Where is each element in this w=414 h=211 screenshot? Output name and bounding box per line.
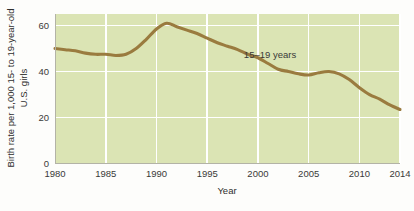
x-tick-label: 1995: [197, 168, 218, 179]
plot-area-background: [55, 14, 400, 163]
y-tick-label: 40: [38, 66, 49, 77]
y-tick-label: 20: [38, 112, 49, 123]
y-axis-title-line1: Birth rate per 1,000 15- to 19-year-old: [5, 9, 16, 168]
x-tick-label: 1980: [44, 168, 65, 179]
chart-figure: 0204060 19801985199019952000200520102014…: [0, 0, 414, 211]
series-annotation-label: 15–19 years: [244, 49, 297, 60]
x-tick-label: 1990: [146, 168, 167, 179]
x-tick-label: 1985: [95, 168, 116, 179]
x-tick-label: 2010: [349, 168, 370, 179]
x-tick-label: 2014: [389, 168, 410, 179]
x-axis-title: Year: [217, 185, 236, 196]
line-chart: 0204060 19801985199019952000200520102014…: [0, 0, 414, 211]
y-tick-label: 60: [38, 20, 49, 31]
y-axis-title-line2: U.S. girls: [18, 68, 29, 107]
x-tick-label: 2005: [298, 168, 319, 179]
x-tick-label: 2000: [247, 168, 268, 179]
